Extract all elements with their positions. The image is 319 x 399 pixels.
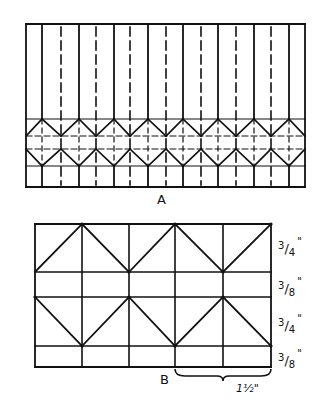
dimension-brace: [175, 369, 271, 381]
vertex-dot: [33, 295, 36, 298]
vertex-dot: [269, 344, 272, 347]
diagonal-fold-row3: [35, 297, 82, 346]
hexagon-edge-lower: [26, 149, 42, 166]
hexagon-edge-upper: [79, 119, 96, 136]
diagram-a-label: A: [157, 193, 166, 206]
dimension-label: 3/8": [278, 280, 302, 296]
diagonal-fold-row1: [82, 224, 129, 272]
vertex-dot: [127, 295, 130, 298]
hexagon-edge-lower: [79, 149, 96, 166]
diagram-a: [26, 24, 305, 187]
hexagon-edge-lower: [236, 149, 254, 166]
hexagon-edge-lower: [148, 149, 166, 166]
hexagon-edge-upper: [96, 119, 114, 136]
vertex-dot: [173, 222, 176, 225]
hexagon-edge-lower: [114, 149, 130, 166]
diagram-b-label: B: [160, 373, 169, 386]
diagonal-fold-row3: [82, 297, 129, 346]
hexagon-edge-upper: [289, 119, 305, 136]
brace-dimension-label: 1½": [236, 383, 259, 394]
hexagon-edge-upper: [166, 119, 183, 136]
hexagon-edge-upper: [114, 119, 130, 136]
hexagon-edge-upper: [61, 119, 79, 136]
hexagon-edge-lower: [130, 149, 148, 166]
diagonal-fold-row1: [223, 224, 271, 272]
vertex-dot: [173, 344, 176, 347]
hexagon-edge-lower: [96, 149, 114, 166]
dimension-label: 3/8": [278, 352, 302, 368]
hexagon-edge-upper: [42, 119, 61, 136]
diagonal-fold-row3: [129, 297, 175, 346]
hexagon-edge-upper: [201, 119, 218, 136]
hexagon-edge-upper: [130, 119, 148, 136]
vertex-dot: [221, 295, 224, 298]
vertex-dot: [80, 344, 83, 347]
diagonal-fold-row3: [223, 297, 271, 346]
hexagon-edge-upper: [183, 119, 201, 136]
hexagon-edge-lower: [42, 149, 61, 166]
diagram-b: [33, 222, 272, 381]
hexagon-edge-upper: [271, 119, 289, 136]
diagonal-fold-row1: [35, 224, 82, 272]
dimension-label: 3/4": [278, 317, 302, 333]
hexagon-edge-lower: [254, 149, 271, 166]
vertex-dot: [221, 270, 224, 273]
hexagon-edge-lower: [271, 149, 289, 166]
hexagon-edge-upper: [26, 119, 42, 136]
dimension-label: 3/4": [278, 240, 302, 256]
hexagon-edge-lower: [166, 149, 183, 166]
hexagon-edge-lower: [183, 149, 201, 166]
hexagon-edge-lower: [61, 149, 79, 166]
diagonal-fold-row1: [175, 224, 223, 272]
hexagon-edge-upper: [236, 119, 254, 136]
hexagon-edge-lower: [201, 149, 218, 166]
hexagon-edge-upper: [218, 119, 236, 136]
vertex-dot: [127, 270, 130, 273]
hexagon-edge-upper: [148, 119, 166, 136]
diagonal-fold-row3: [175, 297, 223, 346]
diagonal-fold-row1: [129, 224, 175, 272]
hexagon-edge-upper: [254, 119, 271, 136]
hexagon-edge-lower: [218, 149, 236, 166]
hexagon-edge-lower: [289, 149, 305, 166]
vertex-dot: [80, 222, 83, 225]
vertex-dot: [269, 222, 272, 225]
